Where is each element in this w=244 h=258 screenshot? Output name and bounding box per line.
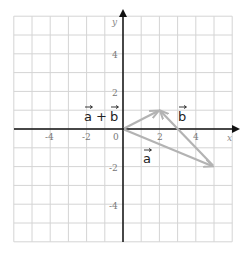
label-b-text: b [178, 109, 186, 124]
label-b: b [178, 106, 187, 125]
label-sum-plus: + [96, 109, 107, 124]
y-tick-label: -4 [109, 201, 118, 211]
label-a-text: a [143, 151, 151, 166]
y-axis-label: y [111, 17, 118, 27]
y-tick-label: 4 [112, 50, 118, 60]
vector-diagram: x y 0 -4 -2 2 4 4 2 -2 -4 a b a + b [0, 0, 244, 258]
x-tick-label: 2 [157, 132, 163, 142]
vector-b [161, 111, 214, 166]
label-a-plus-b: a + b [84, 106, 119, 125]
x-axis-label: x [227, 133, 232, 143]
x-tick-label: -4 [45, 132, 54, 142]
x-tick-label: -2 [82, 132, 91, 142]
label-a: a [143, 149, 152, 167]
label-sum-b: b [110, 109, 118, 124]
x-tick-label: 4 [193, 132, 199, 142]
origin-label: 0 [113, 132, 119, 142]
label-sum-a: a [84, 109, 92, 124]
y-tick-label: -2 [109, 163, 118, 173]
y-tick-label: 2 [112, 88, 118, 98]
